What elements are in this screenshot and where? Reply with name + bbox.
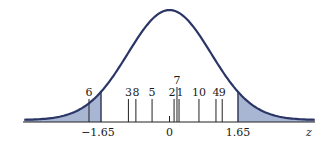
mark-label: 6 bbox=[85, 86, 92, 99]
mark-label: 1 bbox=[177, 86, 184, 99]
normal-curve bbox=[24, 10, 315, 120]
mark-label: 9 bbox=[219, 86, 226, 99]
tick-label: 1.65 bbox=[226, 126, 251, 139]
sample-mark-3: 3 bbox=[125, 86, 132, 122]
tick-label: −1.65 bbox=[81, 126, 115, 139]
sample-mark-1: 1 bbox=[177, 86, 184, 122]
mark-label: 10 bbox=[192, 86, 206, 99]
axis-tick-labels: −1.6501.65 bbox=[81, 126, 250, 139]
sample-marks: 63852711049 bbox=[85, 74, 225, 122]
tick-label: 0 bbox=[166, 126, 173, 139]
sample-mark-10: 10 bbox=[192, 86, 206, 122]
sample-mark-9: 9 bbox=[219, 86, 226, 122]
mark-label: 5 bbox=[149, 86, 156, 99]
axis-label-z: z bbox=[305, 126, 312, 139]
mark-label: 8 bbox=[132, 86, 139, 99]
normal-distribution-chart: 63852711049 −1.6501.65 z bbox=[0, 0, 333, 145]
mark-label: 2 bbox=[169, 86, 176, 99]
mark-label: 3 bbox=[125, 86, 132, 99]
sample-mark-5: 5 bbox=[149, 86, 156, 122]
sample-mark-8: 8 bbox=[132, 86, 139, 122]
right-tail-region bbox=[238, 92, 315, 122]
